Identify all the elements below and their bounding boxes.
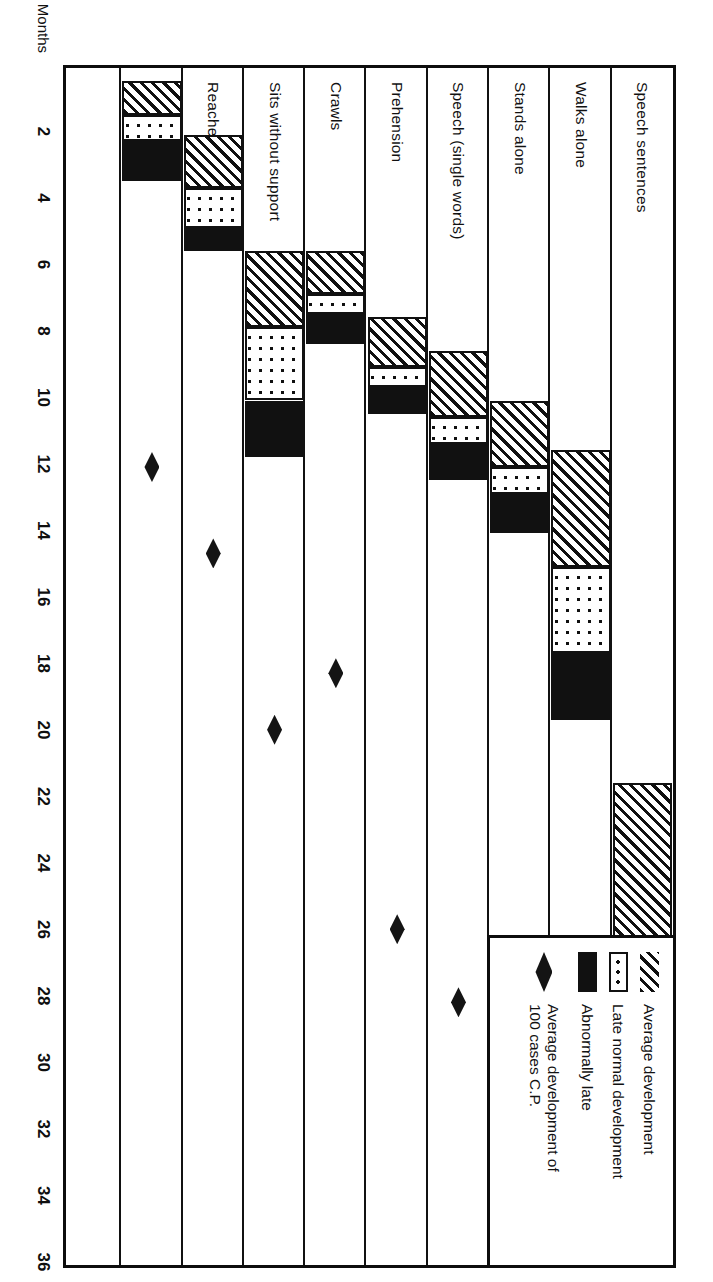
cp-marker-sits-without-support xyxy=(267,715,282,745)
bar-segment-solid-head-control xyxy=(122,141,181,181)
bar-segment-dots-prehension xyxy=(368,367,427,387)
cp-marker-speech-single-words xyxy=(451,987,466,1017)
row-divider xyxy=(119,68,121,1265)
chart-row-blank xyxy=(60,68,121,1265)
axis-tick-2: 2 xyxy=(33,127,53,136)
row-label-speech-sentences: Speech sentences xyxy=(633,82,651,213)
cp-marker-prehension xyxy=(390,914,405,944)
axis-tick-20: 20 xyxy=(33,721,53,740)
chart-row-prehension: Prehension xyxy=(367,68,428,1265)
legend-item-average-development: Average development xyxy=(634,952,665,1255)
axis-tick-36: 36 xyxy=(33,1253,53,1272)
bar-segment-hatch-sits-without-support xyxy=(245,251,304,327)
axis-tick-32: 32 xyxy=(33,1120,53,1139)
bar-segment-solid-crawls xyxy=(306,314,365,344)
bar-segment-solid-speech-single-words xyxy=(429,444,488,481)
figure-page: Speech sentencesWalks aloneStands aloneS… xyxy=(0,0,713,1282)
bar-segment-solid-reaches-for-objects xyxy=(184,228,243,251)
cp-marker-reaches-for-objects xyxy=(206,538,221,568)
legend-label: Late normal development xyxy=(610,1004,628,1179)
axis-tick-34: 34 xyxy=(33,1186,53,1205)
bar-segment-dots-sits-without-support xyxy=(245,327,304,400)
chart-row-head-control: Head control xyxy=(121,68,182,1265)
row-label-stands-alone: Stands alone xyxy=(511,82,529,175)
axis-title-label: Months xyxy=(35,4,52,67)
chart-plot-area: Speech sentencesWalks aloneStands aloneS… xyxy=(63,65,676,1268)
legend-swatch-diamond-icon xyxy=(536,952,553,992)
bar-segment-solid-walks-alone xyxy=(551,653,610,720)
cp-marker-crawls xyxy=(328,658,343,688)
bar-segment-dots-speech-single-words xyxy=(429,417,488,444)
bar-segment-hatch-reaches-for-objects xyxy=(184,135,243,188)
row-label-prehension: Prehension xyxy=(388,82,406,162)
row-divider xyxy=(181,68,183,1265)
legend-label: Abnormally late xyxy=(579,1004,597,1111)
bar-segment-solid-prehension xyxy=(368,387,427,414)
legend-label: Average development of 100 cases C.P. xyxy=(526,1004,562,1172)
row-divider xyxy=(303,68,305,1265)
bar-segment-hatch-walks-alone xyxy=(551,450,610,566)
rotated-chart-stage: Speech sentencesWalks aloneStands aloneS… xyxy=(0,0,713,1282)
axis-tick-10: 10 xyxy=(33,388,53,407)
bar-segment-solid-sits-without-support xyxy=(245,401,304,458)
bar-segment-hatch-head-control xyxy=(122,81,181,114)
axis-tick-12: 12 xyxy=(33,455,53,474)
legend-label: Average development xyxy=(641,1004,659,1155)
bar-segment-dots-crawls xyxy=(306,294,365,314)
legend-swatch-dots-icon xyxy=(609,952,628,992)
bar-segment-hatch-crawls xyxy=(306,251,365,294)
axis-tick-30: 30 xyxy=(33,1053,53,1072)
bar-segment-solid-stands-alone xyxy=(490,494,549,534)
row-divider xyxy=(242,68,244,1265)
bar-segment-hatch-speech-single-words xyxy=(429,351,488,418)
cp-marker-head-control xyxy=(144,452,159,482)
bar-segment-hatch-prehension xyxy=(368,317,427,367)
legend-item-late-normal-development: Late normal development xyxy=(603,952,634,1255)
months-axis: Months 24681012141618202224262830323436 xyxy=(15,65,61,1268)
axis-tick-8: 8 xyxy=(33,326,53,335)
chart-row-reaches-for-objects: Reaches for objects xyxy=(183,68,244,1265)
row-label-sits-without-support: Sits without support xyxy=(266,82,284,221)
axis-tick-22: 22 xyxy=(33,787,53,806)
legend-swatch-solid-icon xyxy=(578,952,597,992)
chart-row-crawls: Crawls xyxy=(305,68,366,1265)
axis-tick-18: 18 xyxy=(33,654,53,673)
chart-legend: Average developmentLate normal developme… xyxy=(487,935,673,1265)
row-label-crawls: Crawls xyxy=(327,82,345,131)
axis-tick-16: 16 xyxy=(33,588,53,607)
bar-segment-dots-stands-alone xyxy=(490,467,549,494)
bar-segment-dots-head-control xyxy=(122,115,181,142)
chart-row-speech-single-words: Speech (single words) xyxy=(428,68,489,1265)
bar-segment-dots-reaches-for-objects xyxy=(184,188,243,228)
legend-item-average-development-of: Average development of 100 cases C.P. xyxy=(516,952,572,1255)
bar-segment-dots-walks-alone xyxy=(551,567,610,653)
row-label-speech-single-words: Speech (single words) xyxy=(449,82,467,240)
axis-tick-14: 14 xyxy=(33,521,53,540)
legend-swatch-hatch-icon xyxy=(640,952,659,992)
bar-segment-hatch-stands-alone xyxy=(490,401,549,468)
axis-tick-6: 6 xyxy=(33,260,53,269)
chart-row-sits-without-support: Sits without support xyxy=(244,68,305,1265)
row-divider xyxy=(365,68,367,1265)
axis-tick-24: 24 xyxy=(33,854,53,873)
axis-tick-28: 28 xyxy=(33,987,53,1006)
row-label-walks-alone: Walks alone xyxy=(572,82,590,168)
row-divider xyxy=(426,68,428,1265)
axis-tick-26: 26 xyxy=(33,920,53,939)
axis-tick-4: 4 xyxy=(33,193,53,202)
legend-item-abnormally-late: Abnormally late xyxy=(572,952,603,1255)
